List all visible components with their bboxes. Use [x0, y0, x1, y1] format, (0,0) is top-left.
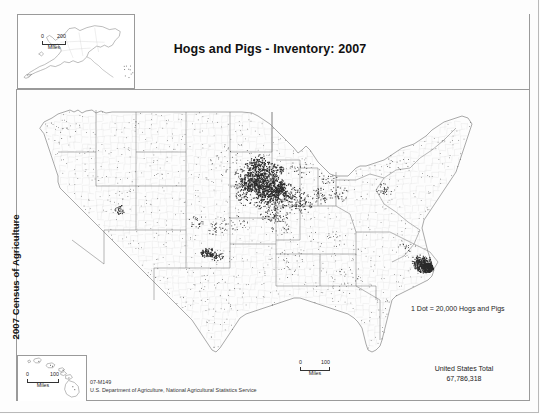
main-scalebar: 0 100 Miles [300, 360, 338, 377]
us-total-label: United States Total [408, 364, 520, 374]
map-number: 07-M149 [90, 378, 257, 386]
source-agency: U.S. Department of Agriculture, National… [90, 386, 257, 394]
map-page: Hogs and Pigs - Inventory: 2007 2007 Cen… [0, 0, 540, 414]
hawaii-scale-max: 100 [50, 372, 59, 378]
main-scale-unit: Miles [300, 371, 330, 377]
hawaii-scalebar: 0 100 Miles [27, 372, 67, 389]
main-map [16, 90, 529, 400]
main-scale-min: 0 [299, 360, 302, 366]
sheet-rule-right [529, 14, 530, 401]
alaska-map [18, 15, 134, 88]
source-note: 07-M149 U.S. Department of Agriculture, … [90, 378, 257, 394]
dot-value-legend: 1 Dot = 20,000 Hogs and Pigs [411, 305, 505, 312]
usa-map-svg [16, 90, 529, 400]
sheet-rule-bottom [16, 400, 530, 401]
us-total-value: 67,786,318 [408, 374, 520, 384]
alaska-inset: 0 200 Miles [17, 14, 135, 89]
hawaii-scale-unit: Miles [27, 383, 59, 389]
alaska-scale-min: 0 [41, 34, 44, 40]
alaska-scale-unit: Miles [42, 45, 66, 51]
main-scale-max: 100 [321, 360, 330, 366]
alaska-scalebar: 0 200 Miles [42, 34, 72, 51]
alaska-scale-max: 200 [57, 34, 66, 40]
hawaii-scale-min: 0 [26, 372, 29, 378]
united-states-total: United States Total 67,786,318 [408, 364, 520, 384]
